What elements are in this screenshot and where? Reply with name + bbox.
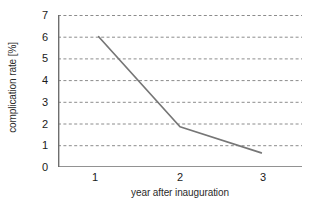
complication-rate-line-chart: complication rate [%] 7 6 5 4 3 2 1 0 (0, 0, 316, 210)
x-tick-label: 3 (260, 171, 266, 183)
y-axis-title: complication rate [%] (7, 42, 18, 133)
y-tick-label: 6 (42, 31, 48, 43)
y-axis-title-container: complication rate [%] (0, 0, 24, 175)
x-axis-title: year after inauguration (58, 187, 302, 198)
y-tick-label: 3 (42, 96, 48, 108)
chart-svg (58, 15, 302, 167)
y-tick-label: 5 (42, 52, 48, 64)
y-axis-tick-labels: 7 6 5 4 3 2 1 0 (24, 0, 52, 180)
data-line-complication-rate (99, 37, 262, 153)
y-tick-label: 4 (42, 74, 48, 86)
x-tick-label: 1 (92, 171, 98, 183)
y-tick-label: 2 (42, 118, 48, 130)
y-tick-label: 7 (42, 9, 48, 21)
plot-area (58, 15, 302, 167)
y-tick-label: 1 (42, 139, 48, 151)
y-tick-label: 0 (42, 161, 48, 173)
x-axis-tick-labels: 1 2 3 (58, 169, 302, 187)
x-tick-label: 2 (177, 171, 183, 183)
